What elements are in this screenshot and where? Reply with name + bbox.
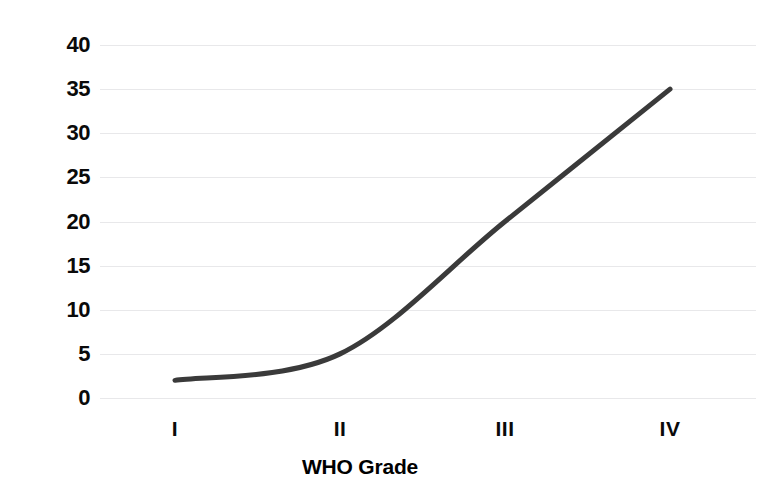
- x-tick-label: II: [310, 418, 370, 439]
- x-tick-label: III: [475, 418, 535, 439]
- line-chart: Mitotic Count perHPF 0510152025303540 II…: [0, 0, 780, 497]
- y-tick-label: 15: [38, 255, 90, 277]
- y-tick-label: 30: [38, 122, 90, 144]
- x-axis-title: WHO Grade: [0, 455, 780, 479]
- y-tick-label: 0: [38, 387, 90, 409]
- y-tick-label: 20: [38, 211, 90, 233]
- x-tick-label: I: [145, 418, 205, 439]
- y-tick-label: 40: [38, 34, 90, 56]
- y-tick-label: 35: [38, 78, 90, 100]
- series-path-mitotic-count: [175, 89, 670, 380]
- y-tick-label: 5: [38, 343, 90, 365]
- x-tick-label: IV: [640, 418, 700, 439]
- x-axis-title-label: WHO Grade: [302, 455, 418, 478]
- x-axis-ticks: IIIIIIIV: [100, 418, 756, 446]
- y-axis-ticks: 0510152025303540: [38, 0, 90, 497]
- y-tick-label: 25: [38, 166, 90, 188]
- y-tick-label: 10: [38, 299, 90, 321]
